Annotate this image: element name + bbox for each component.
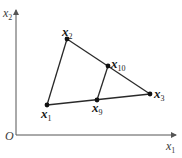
point-x3 [148, 92, 153, 97]
x-axis-label: x1 [165, 139, 175, 155]
diagram-svg: x2 x1 O x2 x10 x3 x1 x9 [0, 0, 182, 158]
origin-label: O [5, 129, 14, 143]
point-x10 [106, 64, 111, 69]
edge-x1-x2 [47, 39, 67, 105]
label-x3: x3 [153, 86, 165, 103]
label-x10: x10 [110, 56, 126, 73]
label-x1: x1 [40, 106, 52, 123]
edge-x9-x10 [97, 66, 108, 100]
simplex-diagram: x2 x1 O x2 x10 x3 x1 x9 [0, 0, 182, 158]
y-axis-label: x2 [2, 6, 12, 22]
label-x2: x2 [61, 24, 73, 41]
label-x9: x9 [91, 100, 103, 117]
